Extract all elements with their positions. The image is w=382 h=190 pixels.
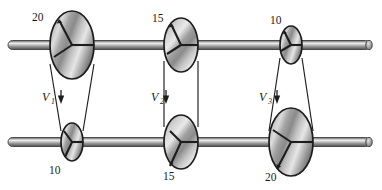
pulley-top-1 (50, 11, 94, 79)
belt-2-speed-subscript: 2 (160, 97, 164, 106)
pulley-top-1-size-label: 20 (32, 11, 44, 23)
belt-1-speed-symbol: V (42, 90, 51, 104)
pulley-bottom-3 (269, 108, 313, 176)
pulley-bottom-1-size-label: 10 (49, 164, 61, 176)
lower-shaft-end-cap (366, 137, 372, 146)
pulley-top-3 (280, 26, 302, 64)
pulley-bottom-2 (164, 115, 198, 169)
belt-3-speed-symbol: V (259, 90, 268, 104)
belt-3-speed-subscript: 3 (267, 97, 272, 106)
belt-1-speed-subscript: 1 (51, 97, 55, 106)
pulley-top-2 (164, 18, 198, 72)
pulley-bottom-2-size-label: 15 (163, 170, 175, 182)
diagram-canvas: 20 15 10 10 15 20 V 1 V 2 V 3 (0, 0, 382, 190)
pulley-diagram-figure: 20 15 10 10 15 20 V 1 V 2 V 3 (0, 0, 382, 190)
pulley-bottom-1 (61, 123, 83, 161)
belt-3-speed-label: V 3 (259, 90, 272, 106)
belt-1-direction-arrow (58, 90, 64, 104)
pulley-top-2-size-label: 15 (152, 12, 164, 24)
belt-2-speed-symbol: V (151, 90, 160, 104)
belt-2-speed-label: V 2 (151, 90, 164, 106)
pulley-top-3-size-label: 10 (270, 14, 282, 26)
belt-1-speed-label: V 1 (42, 90, 55, 106)
pulley-bottom-3-size-label: 20 (265, 171, 277, 183)
upper-shaft-end-cap (366, 40, 372, 49)
